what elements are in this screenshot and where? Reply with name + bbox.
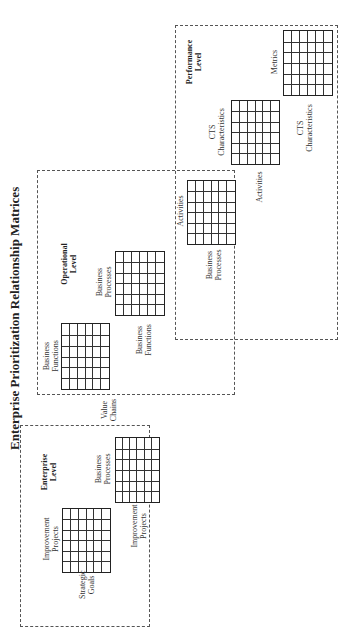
matrix-cell <box>132 284 140 295</box>
label-line: Metrics <box>270 37 279 87</box>
matrix-cell <box>124 263 132 274</box>
matrix-cell <box>152 449 159 460</box>
matrix-cell <box>256 112 264 123</box>
matrix-cell <box>124 294 132 305</box>
matrix-cell <box>63 541 71 552</box>
matrix-cell <box>78 378 86 389</box>
matrix-cell <box>248 133 256 144</box>
label-line: Processes <box>214 243 223 287</box>
matrix-cell <box>123 481 130 492</box>
matrix-cell <box>132 294 140 305</box>
matrix-cell <box>300 42 308 53</box>
matrix-cell <box>130 470 137 481</box>
matrix-cell <box>102 551 110 562</box>
matrix-cell <box>101 335 109 346</box>
matrix-cell <box>102 530 110 541</box>
matrix-side-label-value-chains: Value Chains <box>100 395 118 425</box>
matrix-cell <box>124 273 132 284</box>
matrix-cell <box>240 122 248 133</box>
matrix-cell <box>248 122 256 133</box>
matrix-cell <box>71 520 79 531</box>
label-line: Activities <box>176 183 185 239</box>
matrix-cell <box>196 234 204 245</box>
matrix-cell <box>188 234 196 245</box>
matrix-cell <box>256 133 264 144</box>
matrix-cell <box>263 154 271 165</box>
matrix-cell <box>124 305 132 316</box>
matrix-cell <box>300 31 308 42</box>
matrix-cell <box>316 84 324 95</box>
matrix-cell <box>156 263 164 274</box>
matrix-cell <box>70 324 78 335</box>
matrix-cell <box>292 84 300 95</box>
matrix-cell <box>292 52 300 63</box>
matrix-cell <box>227 213 235 224</box>
matrix-cell <box>316 42 324 53</box>
matrix-cell <box>324 84 332 95</box>
level-label-line: Level <box>194 32 203 92</box>
matrix-cell <box>116 470 123 481</box>
matrix-side-label: Business Processes <box>205 243 223 287</box>
label-line: Characteristics <box>305 97 314 159</box>
matrix-cell <box>140 273 148 284</box>
label-line: Functions <box>144 315 153 365</box>
matrix-cell <box>271 143 279 154</box>
matrix-cell <box>308 84 316 95</box>
matrix-cell <box>86 346 94 357</box>
label-line: Processes <box>103 441 112 497</box>
matrix-cell <box>124 252 132 263</box>
matrix-business-processes-by-improvement-projects <box>115 437 160 503</box>
label-line: Strategic <box>78 571 87 599</box>
matrix-cell <box>188 181 196 192</box>
matrix-cell <box>316 31 324 42</box>
matrix-cell <box>212 202 220 213</box>
matrix-cell <box>248 154 256 165</box>
matrix-cell <box>62 378 70 389</box>
label-line: Processes <box>104 254 113 310</box>
level-label-line: Enterprise <box>40 442 49 502</box>
matrix-cell <box>324 63 332 74</box>
matrix-cell <box>292 74 300 85</box>
matrix-cell <box>116 438 123 449</box>
matrix-cell <box>87 551 95 562</box>
matrix-cell <box>101 367 109 378</box>
matrix-side-label: Business Functions <box>135 315 153 365</box>
matrix-cell <box>284 42 292 53</box>
matrix-business-processes-by-business-functions <box>115 251 165 316</box>
matrix-cell <box>263 133 271 144</box>
matrix-cell <box>101 378 109 389</box>
matrix-cell <box>79 520 87 531</box>
matrix-cell <box>116 263 124 274</box>
matrix-cell <box>240 143 248 154</box>
matrix-cell <box>204 202 212 213</box>
matrix-cell <box>284 63 292 74</box>
matrix-cell <box>284 74 292 85</box>
matrix-cell <box>212 181 220 192</box>
matrix-cell <box>284 31 292 42</box>
matrix-cell <box>263 112 271 123</box>
matrix-cell <box>116 459 123 470</box>
matrix-cell <box>227 181 235 192</box>
matrix-cts-characteristics-by-activities <box>231 100 280 165</box>
matrix-cell <box>63 530 71 541</box>
label-line: CTS <box>296 97 305 159</box>
matrix-cell <box>93 346 101 357</box>
matrix-cell <box>316 52 324 63</box>
label-line: Business <box>135 315 144 365</box>
matrix-cell <box>123 470 130 481</box>
matrix-cell <box>219 202 227 213</box>
matrix-metrics-by-cts-characteristics <box>283 30 333 96</box>
matrix-cell <box>152 491 159 502</box>
matrix-cell <box>145 449 152 460</box>
matrix-cell <box>152 470 159 481</box>
matrix-cell <box>324 42 332 53</box>
matrix-cell <box>227 202 235 213</box>
matrix-cell <box>219 192 227 203</box>
matrix-cell <box>137 459 144 470</box>
matrix-cell <box>78 335 86 346</box>
matrix-cell <box>271 154 279 165</box>
matrix-cell <box>240 112 248 123</box>
matrix-cell <box>79 551 87 562</box>
label-line: Characteristics <box>217 101 226 163</box>
matrix-cell <box>102 541 110 552</box>
